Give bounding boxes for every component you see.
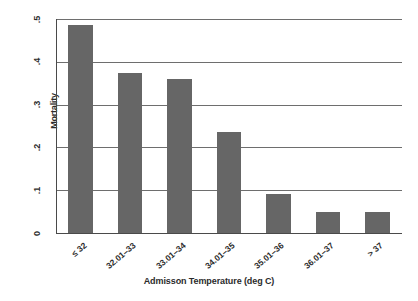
- y-tick-label: 0: [32, 222, 43, 244]
- y-tick-label: .4: [32, 51, 43, 73]
- x-axis-title: Admisson Temperature (deg C): [0, 276, 418, 286]
- plot-area: [56, 19, 402, 233]
- y-tick-label: .2: [32, 136, 43, 158]
- y-tick-label: .5: [32, 8, 43, 30]
- y-axis-line: [56, 19, 57, 234]
- bar: [118, 73, 143, 234]
- y-tick-label: .1: [32, 179, 43, 201]
- bar: [266, 194, 291, 233]
- bar: [316, 212, 341, 233]
- gridline: [56, 105, 402, 106]
- gridline: [56, 19, 402, 20]
- bar: [68, 25, 93, 233]
- bar: [365, 212, 390, 233]
- bar: [217, 132, 242, 233]
- gridline: [56, 62, 402, 63]
- bar-chart-figure: Mortality 0.1.2.3.4.5 ≤ 3232.01–3333.01–…: [0, 0, 418, 301]
- bar: [167, 79, 192, 233]
- x-axis-line: [56, 233, 402, 234]
- y-tick-label: .3: [32, 94, 43, 116]
